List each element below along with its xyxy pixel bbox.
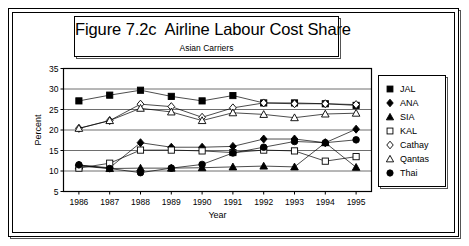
data-point-filled-circle: [106, 165, 113, 172]
series-sia: [75, 139, 360, 172]
legend-item-label: Qantas: [400, 154, 429, 164]
open-triangle-icon: [384, 153, 396, 165]
legend-marker-open-square: [384, 125, 396, 137]
y-tick-label: 10: [49, 166, 59, 176]
y-axis-tick-labels: 3530252015105: [49, 64, 59, 197]
series-line: [79, 140, 356, 173]
legend-marker-open-triangle: [384, 153, 396, 165]
legend-item-sia[interactable]: SIA: [384, 110, 446, 124]
legend-marker-open-diamond: [384, 139, 396, 151]
data-point-open-triangle: [352, 109, 360, 116]
data-point-filled-diamond: [137, 139, 144, 147]
x-tick-label: 1994: [316, 197, 335, 207]
series-jal: [76, 87, 359, 108]
data-point-filled-circle: [387, 170, 393, 176]
filled-square-icon: [384, 83, 396, 95]
x-tick-label: 1989: [162, 197, 181, 207]
legend-marker-filled-circle: [384, 167, 396, 179]
x-tick-label: 1995: [347, 197, 366, 207]
legend-item-kal[interactable]: KAL: [384, 124, 446, 138]
data-point-open-square: [291, 148, 297, 154]
y-tick-label: 35: [49, 64, 59, 74]
data-point-filled-circle: [353, 137, 360, 144]
legend-marker-filled-square: [384, 83, 396, 95]
x-axis-tick-labels: 1986198719881989199019911992199319941995: [69, 197, 365, 207]
data-point-filled-square: [199, 98, 205, 104]
filled-circle-icon: [384, 167, 396, 179]
data-point-filled-circle: [322, 139, 329, 146]
data-point-filled-diamond: [260, 135, 267, 143]
data-point-filled-square: [387, 86, 393, 92]
data-point-filled-circle: [168, 165, 175, 172]
x-tick-label: 1991: [223, 197, 242, 207]
legend-item-label: Thai: [400, 168, 418, 178]
legend-item-qantas[interactable]: Qantas: [384, 152, 446, 166]
series-ana: [76, 125, 360, 172]
series-line: [79, 108, 356, 128]
x-tick-label: 1988: [131, 197, 150, 207]
data-point-filled-square: [168, 93, 174, 99]
y-axis-title: Percent: [33, 114, 43, 146]
series-line: [79, 129, 356, 168]
data-point-open-square: [387, 128, 393, 134]
y-tick-label: 25: [49, 105, 59, 115]
data-point-filled-circle: [76, 162, 83, 169]
open-square-icon: [384, 125, 396, 137]
data-series-layer: [75, 87, 360, 176]
legend-item-cathay[interactable]: Cathay: [384, 138, 446, 152]
y-tick-label: 5: [54, 187, 59, 197]
legend-marker-filled-triangle: [384, 111, 396, 123]
x-tick-label: 1992: [254, 197, 273, 207]
data-point-open-square: [137, 147, 143, 153]
data-point-filled-diamond: [353, 125, 360, 133]
legend-item-label: SIA: [400, 112, 415, 122]
x-tick-label: 1987: [100, 197, 119, 207]
data-point-filled-square: [107, 92, 113, 98]
x-tick-label: 1986: [69, 197, 88, 207]
data-point-open-square: [168, 147, 174, 153]
filled-diamond-icon: [384, 97, 396, 109]
data-point-filled-triangle: [386, 113, 393, 119]
data-point-open-triangle: [386, 155, 393, 161]
data-point-filled-circle: [137, 169, 144, 176]
data-point-filled-square: [137, 87, 143, 93]
legend-item-ana[interactable]: ANA: [384, 96, 446, 110]
y-tick-label: 20: [49, 125, 59, 135]
series-thai: [76, 137, 360, 176]
filled-triangle-icon: [384, 111, 396, 123]
data-point-open-diamond: [387, 141, 393, 149]
x-tick-label: 1993: [285, 197, 304, 207]
legend: JALANASIAKALCathayQantasThai: [378, 75, 446, 187]
series-qantas: [75, 104, 360, 131]
legend-item-label: JAL: [400, 84, 416, 94]
figure-container: Figure 7.2c Airline Labour Cost Share As…: [0, 0, 469, 246]
data-point-filled-circle: [230, 150, 237, 157]
data-point-open-square: [353, 154, 359, 160]
series-cathay: [76, 99, 360, 132]
data-point-filled-square: [76, 98, 82, 104]
legend-marker-filled-diamond: [384, 97, 396, 109]
y-tick-label: 15: [49, 146, 59, 156]
legend-item-label: ANA: [400, 98, 419, 108]
x-tick-label: 1990: [193, 197, 212, 207]
data-point-open-square: [322, 158, 328, 164]
data-point-filled-circle: [260, 144, 267, 151]
x-axis-title: Year: [208, 210, 226, 220]
data-point-filled-circle: [199, 161, 206, 168]
series-line: [79, 90, 356, 105]
data-point-filled-triangle: [352, 164, 360, 171]
gridlines: [61, 69, 372, 192]
legend-item-label: Cathay: [400, 140, 429, 150]
y-tick-label: 30: [49, 84, 59, 94]
legend-item-jal[interactable]: JAL: [384, 82, 446, 96]
data-point-filled-diamond: [387, 99, 393, 107]
legend-item-thai[interactable]: Thai: [384, 166, 446, 180]
data-point-open-square: [199, 148, 205, 154]
legend-item-label: KAL: [400, 126, 417, 136]
data-point-filled-square: [230, 92, 236, 98]
data-point-filled-triangle: [260, 162, 268, 169]
data-point-filled-circle: [291, 138, 298, 145]
open-diamond-icon: [384, 139, 396, 151]
